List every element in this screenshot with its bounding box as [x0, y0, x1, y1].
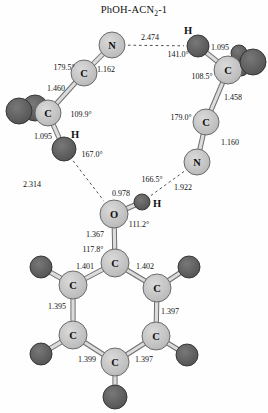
atom-ring-h2 — [178, 256, 200, 278]
atom-acn1-h-left — [6, 98, 32, 124]
hydrogen-bond-acn1-h-down-phenol-o — [73, 161, 103, 201]
angle-label-2: 141.0° — [167, 50, 188, 59]
angle-label-17: 111.2° — [129, 220, 150, 229]
atom-ring-h6 — [30, 256, 52, 278]
atom-label-acn1-h-down: H — [71, 129, 79, 140]
distance-label-16: 0.978 — [112, 189, 130, 198]
distance-label-24: 1.399 — [78, 355, 96, 364]
angle-label-5: 108.5° — [191, 72, 212, 81]
atom-acn2-h-top — [187, 35, 209, 57]
atom-acn1-h-down — [52, 137, 76, 161]
distance-label-21: 1.402 — [136, 262, 154, 271]
distance-label-25: 1.397 — [135, 355, 153, 364]
angle-label-8: 109.9° — [70, 110, 91, 119]
distance-label-14: 2.314 — [23, 180, 41, 189]
atom-symbol-ring-c2: C — [153, 283, 161, 294]
distance-label-18: 1.367 — [86, 230, 104, 239]
angle-label-9: 179.0° — [170, 113, 191, 122]
atom-symbol-acn2-cme: C — [224, 65, 232, 76]
angle-label-3: 179.5° — [53, 63, 74, 72]
distance-label-6: 1.460 — [47, 84, 65, 93]
atom-symbol-acn1-n: N — [108, 40, 116, 51]
atom-ring-h3 — [176, 344, 198, 366]
distance-label-7: 1.458 — [224, 93, 242, 102]
distance-label-22: 1.395 — [48, 302, 66, 311]
atom-symbol-ring-c3: C — [152, 331, 160, 342]
atom-symbol-ring-c5: C — [69, 330, 77, 341]
distance-label-0: 2.474 — [141, 33, 159, 42]
atom-symbol-acn2-c: C — [202, 117, 210, 128]
atom-symbol-phenol-o: O — [110, 209, 118, 220]
angle_distance-label-4: 1.162 — [97, 65, 115, 74]
atom-phenol-h — [134, 194, 150, 210]
hydrogen-bond-acn1-n-acn2-h-top — [128, 45, 184, 46]
atom-symbol-acn1-cme: C — [44, 108, 52, 119]
distance-label-10: 1.095 — [34, 132, 52, 141]
distance-label-23: 1.397 — [161, 307, 179, 316]
atom-symbol-ring-c1: C — [111, 258, 119, 269]
angle-label-13: 166.5° — [141, 175, 162, 184]
distance-label-15: 1.922 — [174, 183, 192, 192]
atom-ring-h5 — [30, 343, 52, 365]
angle-label-19: 117.8° — [83, 245, 104, 254]
atom-symbol-acn2-n: N — [193, 157, 201, 168]
atom-acn2-h-big — [240, 49, 266, 75]
figure-page: PhOH-ACN2-1 NCCCCNOCCCCCCHHH2.4741.09514… — [0, 0, 268, 413]
distance-label-20: 1.401 — [76, 262, 94, 271]
molecule-diagram: NCCCCNOCCCCCCHHH2.4741.095141.0°179.5°1.… — [0, 0, 268, 413]
atom-label-acn2-h-top: H — [184, 25, 192, 36]
atom-symbol-acn1-c: C — [80, 68, 88, 79]
distance-label-1: 1.095 — [211, 43, 229, 52]
distance-label-11: 1.160 — [221, 138, 239, 147]
angle-label-12: 167.0° — [81, 150, 102, 159]
atom-symbol-ring-c6: C — [69, 280, 77, 291]
atom-symbol-ring-c4: C — [111, 357, 119, 368]
atom-ring-h4 — [103, 385, 127, 409]
labels-layer: HHH2.4741.095141.0°179.5°1.162108.5°1.46… — [23, 25, 242, 364]
atom-label-phenol-h: H — [153, 198, 161, 209]
